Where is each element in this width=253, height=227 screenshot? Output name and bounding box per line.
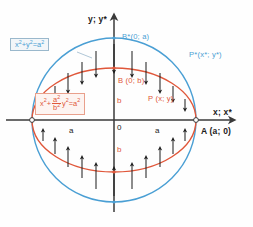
segment-label-b-lower: b (117, 146, 122, 154)
geometry-figure: x2+y2=a2 x2+a2b2y2=a2 y; y* x; x* B*(0; … (0, 0, 253, 227)
ellipse-eq-frac-den-wrap: b2 (52, 103, 61, 111)
ellipse-eq-plus: + (47, 99, 51, 108)
circle-equation-box: x2+y2=a2 (10, 38, 49, 51)
ellipse-equation-box: x2+a2b2y2=a2 (35, 93, 85, 115)
segment-label-a-right: a (155, 127, 160, 135)
segment-label-b-upper: b (117, 97, 122, 105)
ellipse-eq-rhs-exp: 2 (77, 97, 80, 103)
segment-label-a-left: a (69, 127, 74, 135)
x-axis-label: x; x* (213, 108, 232, 117)
point-label-b-star: B*(0; a) (122, 33, 149, 41)
origin-label: 0 (117, 124, 122, 132)
circle-formula-leader (77, 52, 92, 58)
point-label-b: B (0; b) (118, 77, 145, 85)
ellipse-eq-fraction: a2b2 (52, 96, 61, 112)
circle-eq-rhs-exp: 2 (41, 39, 44, 45)
point-label-p-star: P*(x*; y*) (189, 51, 222, 59)
ellipse-eq-frac-num-exp: 2 (57, 94, 60, 100)
point-label-p: P (x; y) (148, 95, 174, 103)
point-label-a: A (a; 0) (201, 127, 231, 136)
y-axis-label: y; y* (88, 15, 107, 24)
ellipse-eq-frac-den-exp: 2 (57, 102, 60, 108)
